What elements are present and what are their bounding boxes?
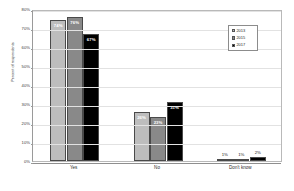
y-axis-tick-label: 50% xyxy=(8,65,30,69)
x-axis-category-label: Don't know xyxy=(229,165,252,170)
y-axis-tick-label: 80% xyxy=(8,8,30,12)
legend-swatch-icon xyxy=(232,36,235,39)
x-axis-category-label: Yes xyxy=(70,165,78,170)
y-axis-tickmark xyxy=(31,87,34,88)
legend-swatch-icon xyxy=(232,44,235,47)
y-axis-tickmark xyxy=(31,11,34,12)
gridline xyxy=(33,125,281,126)
y-axis-tickmark xyxy=(31,106,34,107)
bar-value-label: 76% xyxy=(70,21,79,25)
y-axis-tickmark xyxy=(31,144,34,145)
y-axis-tickmark xyxy=(31,30,34,31)
gridline xyxy=(33,11,281,12)
x-axis-category-labels: YesNoDon't know xyxy=(32,165,282,179)
y-axis-tick-label: 40% xyxy=(8,84,30,88)
x-axis-category-label: No xyxy=(154,165,160,170)
bar-value-label: 26% xyxy=(137,116,146,120)
legend-item[interactable]: 2017 xyxy=(232,43,256,47)
legend-label: 2013 xyxy=(236,29,245,33)
bar[interactable] xyxy=(233,159,249,161)
bar[interactable]: 76% xyxy=(67,17,83,161)
y-axis-tick-label: 20% xyxy=(8,122,30,126)
legend-swatch-icon xyxy=(232,29,235,32)
gridline xyxy=(33,144,281,145)
bar-group: 74%76%67% xyxy=(50,11,99,161)
bar[interactable]: 67% xyxy=(83,34,99,161)
bar-chart: Percent of respondents 80%70%60%50%40%30… xyxy=(0,0,294,191)
axis-baseline xyxy=(33,163,281,164)
chart-legend: 201320152017 xyxy=(228,25,258,51)
y-axis-tickmark xyxy=(31,163,34,164)
legend-label: 2017 xyxy=(236,43,245,47)
bar[interactable]: 31% xyxy=(167,102,183,161)
bar[interactable] xyxy=(250,157,266,161)
bar-value-label: 1% xyxy=(222,153,228,157)
bar[interactable]: 26% xyxy=(134,112,150,161)
bar-value-label: 74% xyxy=(54,24,63,28)
bar-value-label: 67% xyxy=(87,38,96,42)
y-axis-tick-labels: 80%70%60%50%40%30%20%10%0% xyxy=(8,10,30,162)
gridline xyxy=(33,106,281,107)
y-axis-tickmark xyxy=(31,49,34,50)
y-axis-tick-label: 30% xyxy=(8,103,30,107)
bar[interactable]: 23% xyxy=(150,117,166,161)
bar-group: 26%23%31% xyxy=(134,11,183,161)
bar[interactable]: 74% xyxy=(50,20,66,161)
legend-item[interactable]: 2013 xyxy=(232,29,256,33)
y-axis-tick-label: 0% xyxy=(8,160,30,164)
legend-label: 2015 xyxy=(236,36,245,40)
y-axis-tick-label: 60% xyxy=(8,46,30,50)
bar-value-label: 1% xyxy=(238,153,244,157)
gridline xyxy=(33,68,281,69)
y-axis-tick-label: 10% xyxy=(8,141,30,145)
bar[interactable] xyxy=(217,159,233,161)
legend-item[interactable]: 2015 xyxy=(232,36,256,40)
y-axis-tickmark xyxy=(31,68,34,69)
bar-value-label: 2% xyxy=(255,151,261,155)
y-axis-tick-label: 70% xyxy=(8,27,30,31)
y-axis-tickmark xyxy=(31,125,34,126)
gridline xyxy=(33,87,281,88)
